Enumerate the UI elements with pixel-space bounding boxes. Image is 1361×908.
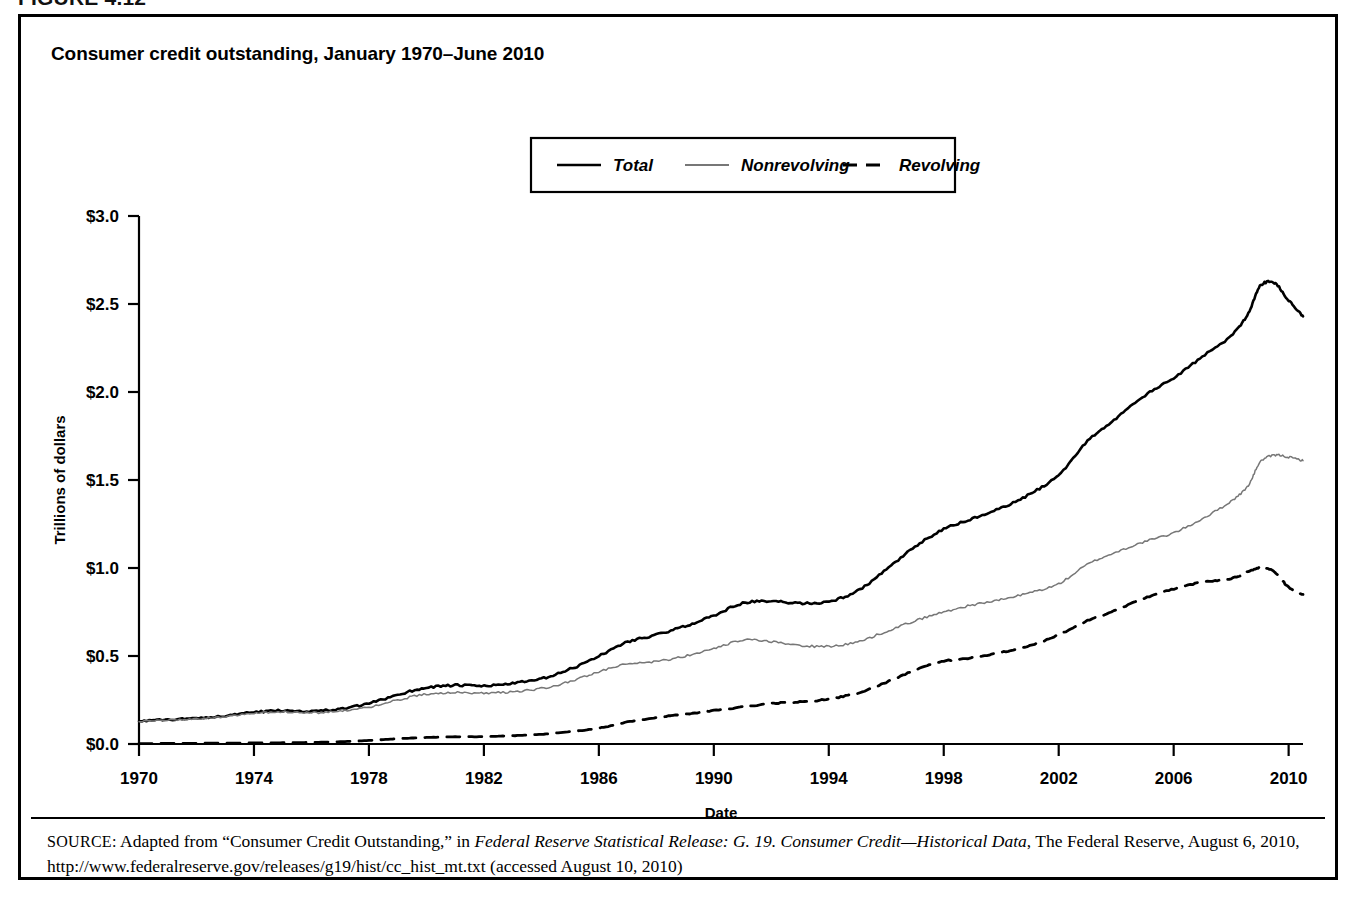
y-axis-tick-label: $2.0 (86, 383, 119, 402)
y-axis-tick-label: $0.5 (86, 647, 119, 666)
chart-plot: $0.0$0.5$1.0$1.5$2.0$2.5$3.0197019741978… (21, 17, 1335, 877)
x-axis-tick-label: 1998 (925, 769, 963, 788)
source-divider (31, 817, 1325, 819)
x-axis-tick-label: 2006 (1155, 769, 1193, 788)
series-line-nonrevolving (139, 454, 1303, 722)
legend-label-total: Total (613, 156, 654, 175)
figure-number-label: FIGURE 4.12 (18, 0, 146, 10)
y-axis-tick-label: $1.5 (86, 471, 119, 490)
legend-label-revolving: Revolving (899, 156, 981, 175)
y-axis-tick-label: $1.0 (86, 559, 119, 578)
y-axis-tick-label: $3.0 (86, 207, 119, 226)
source-note: SOURCE: Adapted from “Consumer Credit Ou… (47, 829, 1309, 880)
x-axis-tick-label: 2010 (1270, 769, 1308, 788)
y-axis-tick-label: $0.0 (86, 735, 119, 754)
x-axis-tick-label: 1978 (350, 769, 388, 788)
figure-box: Consumer credit outstanding, January 197… (18, 14, 1338, 880)
x-axis-tick-label: 1974 (235, 769, 273, 788)
x-axis-tick-label: 1994 (810, 769, 848, 788)
y-axis-title: Trillions of dollars (51, 415, 68, 544)
series-line-revolving (139, 567, 1303, 743)
x-axis-tick-label: 2002 (1040, 769, 1078, 788)
source-prefix: SOURCE: (47, 833, 117, 850)
x-axis-tick-label: 1990 (695, 769, 733, 788)
figure-root: FIGURE 4.12 Consumer credit outstanding,… (0, 0, 1361, 908)
y-axis-tick-label: $2.5 (86, 295, 119, 314)
x-axis-tick-label: 1970 (120, 769, 158, 788)
x-axis-tick-label: 1982 (465, 769, 503, 788)
legend-label-nonrevolving: Nonrevolving (741, 156, 850, 175)
series-line-total (139, 281, 1303, 721)
x-axis-tick-label: 1986 (580, 769, 618, 788)
source-text-before: Adapted from “Consumer Credit Outstandin… (117, 831, 475, 851)
source-italic-title: Federal Reserve Statistical Release: G. … (474, 831, 1026, 851)
